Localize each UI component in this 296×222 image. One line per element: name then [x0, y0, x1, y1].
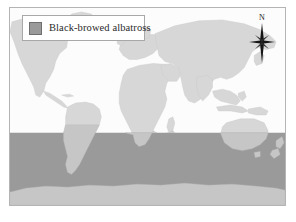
- range-overlay: [10, 125, 285, 205]
- distribution-map-figure: Black-browed albatross N: [0, 0, 296, 222]
- map-frame: Black-browed albatross N: [9, 7, 286, 206]
- compass-rose: N: [247, 13, 277, 65]
- legend-swatch-icon: [29, 22, 42, 35]
- range-land-antarctica: [10, 183, 285, 205]
- range-land-tasmania: [254, 152, 260, 158]
- legend-label: Black-browed albatross: [49, 23, 151, 34]
- compass-rose-icon: [249, 22, 275, 64]
- map-legend: Black-browed albatross: [22, 15, 145, 41]
- compass-north-label: N: [247, 13, 277, 22]
